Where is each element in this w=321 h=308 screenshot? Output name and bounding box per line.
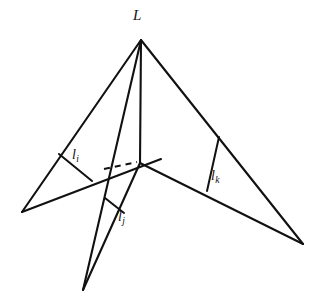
altitude-i-label: li (72, 148, 79, 164)
solid-edge-group (22, 40, 303, 290)
edge-center-to-bottom-outer (83, 163, 140, 290)
edge-center-to-right-outer (140, 163, 303, 244)
altitude-group (59, 137, 219, 213)
edge-apex-to-left-outer (22, 40, 141, 212)
altitude-i-label-subscript: i (76, 154, 79, 164)
hidden-edge-group (104, 162, 137, 169)
altitude-j-label-subscript: j (122, 216, 125, 226)
edge-apex-to-right-outer (141, 40, 303, 244)
edge-apex-to-bottom-outer (83, 40, 141, 290)
geometry-figure: L li lj lk (0, 0, 321, 308)
edge-apex-to-center (140, 40, 141, 163)
altitude-j-label: lj (118, 210, 125, 226)
apex-label-base: L (133, 7, 141, 23)
edge-left-outer-to-center-face (22, 159, 161, 212)
figure-canvas (0, 0, 321, 308)
apex-label: L (133, 8, 141, 23)
altitude-k-label-subscript: k (215, 175, 219, 185)
altitude-k-label: lk (211, 169, 220, 185)
dashed-hidden-edge (104, 162, 137, 169)
